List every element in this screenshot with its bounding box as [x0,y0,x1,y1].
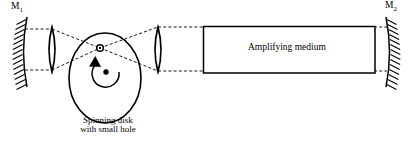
mirror-right-label-subscript: 2 [393,5,397,13]
small-hole-marker [97,45,104,52]
beam-hole-to-lower-right [100,48,158,71]
mirror-right-arc [386,17,390,87]
amplifying-medium-label: Amplifying medium [248,43,326,53]
mirror-left-label: M1 [11,2,23,14]
mirror-left-label-subscript: 1 [19,6,23,14]
rotation-arrowhead [90,57,101,67]
small-hole-center [99,47,101,49]
diagram-canvas [0,0,409,147]
rotation-arc [92,65,119,88]
lens-right-body [155,27,161,72]
lens-right [155,27,161,72]
lens-left [49,27,55,72]
spinning-disk-caption-line2: with small hole [69,125,147,134]
lens-left-body [49,27,55,72]
mirror-left-arc [24,17,28,87]
disk-center-dot [103,69,108,74]
optics-diagram-figure: M1 M2 Amplifying medium Spinning disk wi… [0,0,409,147]
spinning-disk-caption: Spinning disk with small hole [69,116,147,135]
mirror-right-m2 [386,17,400,90]
mirror-left-m1 [13,17,27,90]
beam-upper-left-to-hole [52,29,100,48]
mirror-right-label: M2 [385,1,397,13]
